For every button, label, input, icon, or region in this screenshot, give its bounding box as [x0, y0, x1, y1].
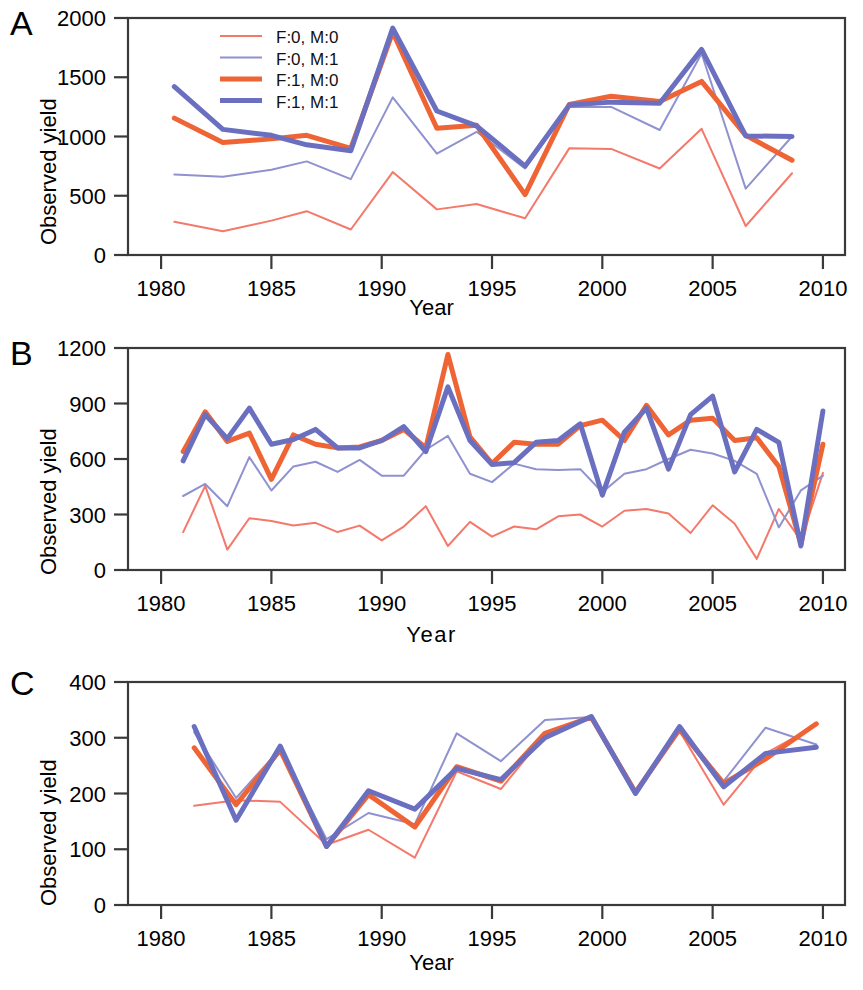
svg-text:1200: 1200 — [57, 336, 106, 361]
figure-root: A Observed yield 05001000150020001980198… — [0, 0, 863, 990]
svg-text:2000: 2000 — [578, 926, 627, 951]
svg-text:1995: 1995 — [468, 591, 517, 616]
panel-a-x-axis-label: Year — [0, 295, 863, 321]
svg-text:100: 100 — [69, 837, 106, 862]
panel-c-x-axis-label: Year — [0, 950, 863, 976]
panel-c-plot: 0100200300400198019851990199520002005201… — [0, 662, 863, 957]
svg-text:0: 0 — [94, 893, 106, 918]
svg-text:600: 600 — [69, 447, 106, 472]
svg-text:1990: 1990 — [357, 926, 406, 951]
svg-text:2000: 2000 — [57, 6, 106, 31]
panel-a-plot: 0500100015002000198019851990199520002005… — [0, 0, 863, 300]
legend-label-3: F:1, M:0 — [276, 71, 338, 90]
panel-b-plot: 0300600900120019801985199019952000200520… — [0, 330, 863, 630]
svg-text:2010: 2010 — [798, 591, 847, 616]
svg-text:2005: 2005 — [688, 591, 737, 616]
svg-text:200: 200 — [69, 782, 106, 807]
svg-text:400: 400 — [69, 670, 106, 695]
svg-text:0: 0 — [94, 243, 106, 268]
svg-text:500: 500 — [69, 184, 106, 209]
panel-c: C Observed yield 01002003004001980198519… — [0, 662, 863, 990]
svg-text:1980: 1980 — [137, 926, 186, 951]
panel-b: B Observed yield 03006009001200198019851… — [0, 330, 863, 660]
legend-label-4: F:1, M:1 — [276, 93, 338, 112]
svg-text:1000: 1000 — [57, 125, 106, 150]
svg-text:1995: 1995 — [468, 926, 517, 951]
svg-text:2010: 2010 — [798, 926, 847, 951]
legend-label-1: F:0, M:0 — [276, 28, 338, 47]
svg-text:1985: 1985 — [247, 926, 296, 951]
svg-text:900: 900 — [69, 392, 106, 417]
panel-a: A Observed yield 05001000150020001980198… — [0, 0, 863, 330]
svg-text:1990: 1990 — [357, 591, 406, 616]
svg-text:1500: 1500 — [57, 65, 106, 90]
svg-text:300: 300 — [69, 726, 106, 751]
svg-text:1980: 1980 — [137, 591, 186, 616]
legend-label-2: F:0, M:1 — [276, 50, 338, 69]
svg-text:2000: 2000 — [578, 591, 627, 616]
svg-text:2005: 2005 — [688, 926, 737, 951]
svg-text:300: 300 — [69, 503, 106, 528]
svg-text:1985: 1985 — [247, 591, 296, 616]
svg-text:0: 0 — [94, 558, 106, 583]
panel-b-x-axis-label: Year — [0, 622, 863, 648]
